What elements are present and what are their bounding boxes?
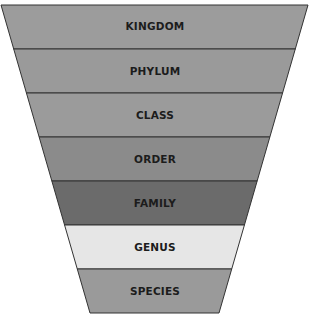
band-label-genus: GENUS	[0, 241, 310, 253]
band-label-species: SPECIES	[0, 285, 310, 297]
band-label-order: ORDER	[0, 153, 310, 165]
band-label-phylum: PHYLUM	[0, 65, 310, 77]
band-label-kingdom: KINGDOM	[0, 20, 310, 32]
band-label-family: FAMILY	[0, 197, 310, 209]
band-label-class: CLASS	[0, 109, 310, 121]
